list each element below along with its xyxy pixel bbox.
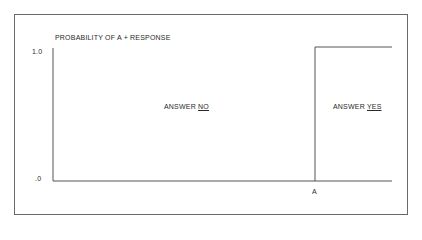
x-tick-threshold: A (312, 188, 317, 195)
y-tick-bottom: .0 (35, 175, 41, 182)
chart-title: PROBABILITY OF A + RESPONSE (55, 34, 171, 41)
region-label-no: ANSWER NO (164, 103, 209, 110)
region-label-yes: ANSWER YES (333, 103, 382, 110)
region-yes-emph: YES (367, 103, 382, 110)
region-no-prefix: ANSWER (164, 103, 198, 110)
y-tick-top: 1.0 (32, 48, 42, 55)
region-no-emph: NO (198, 103, 209, 110)
region-yes-prefix: ANSWER (333, 103, 367, 110)
